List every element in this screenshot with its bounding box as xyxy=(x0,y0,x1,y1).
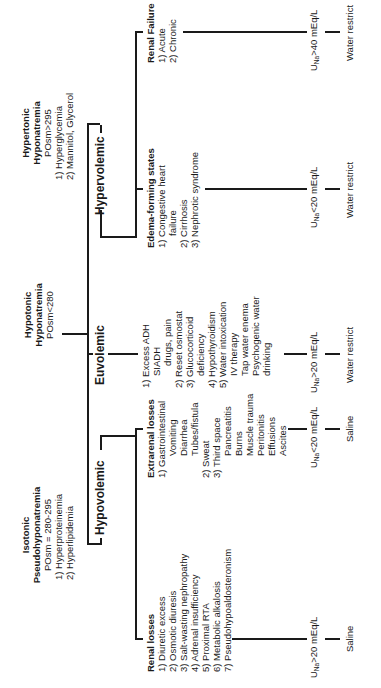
list-item: 7) Pseudohypoaldosteronism xyxy=(222,549,233,672)
list-item: Tap water enema xyxy=(239,296,250,388)
connector-line xyxy=(135,639,143,641)
connector-line xyxy=(232,639,307,641)
extrarenal-losses-box: Extrarenal losses 1) Gastrointestinal Vo… xyxy=(145,394,288,478)
hypervolemic-label: Hypervolemic xyxy=(93,133,107,218)
list-item: Psychogenic water xyxy=(250,296,261,388)
renal-losses-title: Renal losses xyxy=(145,549,156,672)
treatment-label: Saline xyxy=(344,624,355,654)
list-item: 4) Adrenal insufficiency xyxy=(189,549,200,672)
connector-line xyxy=(135,189,143,191)
list-item: 4) Hypothyroidism xyxy=(206,296,217,388)
hypertonic-subtitle: Hyponatremia xyxy=(31,78,42,188)
list-item: Diarrhea xyxy=(178,394,189,478)
list-item: Pancreatitis xyxy=(222,394,233,478)
hypotonic-subtitle: Hyponatremia xyxy=(33,260,44,370)
connector-line xyxy=(325,354,340,356)
isotonic-posm: POsm = 280-295 xyxy=(42,480,53,590)
connector-line xyxy=(325,189,340,191)
connector-line xyxy=(100,210,102,238)
list-item: IV therapy xyxy=(228,296,239,388)
hypotonic-posm: POsm<280 xyxy=(44,260,55,370)
connector-line xyxy=(135,429,143,431)
list-item: 5) Water intoxication xyxy=(217,296,228,388)
connector-line xyxy=(87,544,100,546)
list-item: 5) Proximal RTA xyxy=(200,549,211,672)
connector-line xyxy=(288,429,307,431)
connector-line xyxy=(87,124,100,126)
isotonic-item: 1) Hyperproteinemia xyxy=(53,480,64,590)
una-threshold: UNa>40 mEq/L xyxy=(308,8,320,73)
list-item: 3) Salt-wasting nephropathy xyxy=(178,549,189,672)
renal-losses-box: Renal losses 1) Diuretic excess 2) Osmot… xyxy=(145,549,233,672)
connector-line xyxy=(284,354,307,356)
connector-line xyxy=(325,639,340,641)
connector-line xyxy=(325,429,340,431)
list-item: 3) Glucocorticoid xyxy=(184,296,195,388)
list-item: deficiency xyxy=(195,296,206,388)
edema-forming-title: Edema-forming states xyxy=(145,148,156,248)
hyponatremia-flowchart: Isotonic Pseudohyponatremia POsm = 280-2… xyxy=(0,0,381,688)
list-item: drugs, pain xyxy=(162,296,173,388)
euvolemic-causes-box: 1) Excess ADH SIADH drugs, pain 2) Reset… xyxy=(140,296,272,388)
una-threshold: UNa>20 mEq/L xyxy=(308,615,320,680)
connector-line xyxy=(100,537,102,545)
una-threshold: UNa>20 mEq/L xyxy=(308,330,320,395)
connector-line xyxy=(135,33,137,238)
list-item: Peritonitis xyxy=(255,394,266,478)
list-item: 1) Congestive heart xyxy=(156,148,167,248)
list-item: 1) Gastrointestinal xyxy=(156,394,167,478)
list-item: SIADH xyxy=(151,296,162,388)
una-threshold: UNa<20 mEq/L xyxy=(308,165,320,230)
list-item: 3) Third space xyxy=(211,394,222,478)
connector-line xyxy=(100,125,102,133)
list-item: 2) Cirrhosis xyxy=(178,148,189,248)
connector-line xyxy=(183,32,307,34)
renal-failure-title: Renal Failure xyxy=(145,3,156,63)
hypotonic-title: Hypotonic xyxy=(22,260,33,370)
una-threshold: UNa<20 mEq/L xyxy=(308,405,320,470)
list-item: 6) Metabolic alkalosis xyxy=(211,549,222,672)
extrarenal-losses-title: Extrarenal losses xyxy=(145,394,156,478)
list-item: Burns xyxy=(233,394,244,478)
connector-line xyxy=(87,125,89,545)
hypertonic-box: Hypertonic Hyponatremia POsm>295 1) Hype… xyxy=(20,78,75,188)
renal-failure-box: Renal Failure 1) Acute 2) Chronic xyxy=(145,3,178,63)
list-item: Tubes/fistula xyxy=(189,394,200,478)
hypertonic-item: 1) Hyperglycemia xyxy=(53,78,64,188)
isotonic-item: 2) Hyperlipidemia xyxy=(64,480,75,590)
euvolemic-label: Euvolemic xyxy=(93,322,107,388)
hypertonic-item: 2) Mannitol, Glycerol xyxy=(64,78,75,188)
hypertonic-title: Hypertonic xyxy=(20,78,31,188)
isotonic-title: Isotonic xyxy=(20,480,31,590)
list-item: Muscle trauma xyxy=(244,394,255,478)
list-item: 1) Excess ADH xyxy=(140,296,151,388)
isotonic-box: Isotonic Pseudohyponatremia POsm = 280-2… xyxy=(20,480,75,590)
connector-line xyxy=(100,237,135,239)
list-item: 2) Sweat xyxy=(200,394,211,478)
connector-line xyxy=(135,430,137,640)
edema-forming-box: Edema-forming states 1) Congestive heart… xyxy=(145,148,200,248)
connector-line xyxy=(205,189,307,191)
list-item: failure xyxy=(167,148,178,248)
list-item: Ascites xyxy=(277,394,288,478)
treatment-label: Saline xyxy=(344,414,355,444)
hypertonic-posm: POsm>295 xyxy=(42,78,53,188)
hypotonic-box: Hypotonic Hyponatremia POsm<280 xyxy=(22,260,55,370)
list-item: 2) Osmotic diuresis xyxy=(167,549,178,672)
treatment-label: Water restrict xyxy=(344,3,355,63)
list-item: Effusions xyxy=(266,394,277,478)
list-item: 1) Diuretic excess xyxy=(156,549,167,672)
connector-line xyxy=(100,437,102,450)
list-item: 1) Acute xyxy=(156,3,167,63)
connector-line xyxy=(100,436,135,438)
list-item: drinking xyxy=(261,296,272,388)
connector-line xyxy=(62,334,87,336)
connector-line xyxy=(325,32,340,34)
treatment-label: Water restrict xyxy=(344,160,355,220)
list-item: 2) Chronic xyxy=(167,3,178,63)
list-item: 2) Reset osmostat xyxy=(173,296,184,388)
hypovolemic-label: Hypovolemic xyxy=(93,457,107,538)
connector-line xyxy=(108,354,138,356)
connector-line xyxy=(135,32,143,34)
isotonic-subtitle: Pseudohyponatremia xyxy=(31,480,42,590)
